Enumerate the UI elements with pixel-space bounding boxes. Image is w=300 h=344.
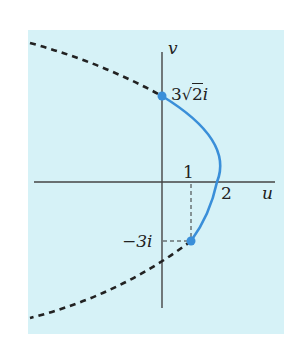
- tick-label-1: 1: [183, 164, 194, 181]
- point-top: [158, 92, 167, 101]
- point-label-bottom: −3i: [122, 233, 153, 250]
- point-label-top-radicand: 2: [192, 83, 203, 104]
- u-axis-label: u: [262, 185, 273, 202]
- point-label-top: 3√2i: [171, 86, 208, 103]
- dashed-curve-lower: [30, 241, 191, 318]
- point-label-top-coefficient: 3: [171, 84, 182, 104]
- point-bottom: [187, 237, 196, 246]
- dashed-curve-upper: [30, 43, 162, 96]
- sqrt-symbol: √: [182, 85, 192, 104]
- tick-label-2: 2: [221, 185, 232, 202]
- v-axis-label: v: [168, 40, 178, 57]
- point-label-top-suffix: i: [203, 84, 208, 104]
- diagram-svg: [0, 0, 300, 344]
